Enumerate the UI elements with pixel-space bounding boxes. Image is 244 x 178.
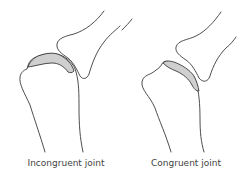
- cartilage-left: [28, 53, 74, 72]
- congruent-joint-illustration: [142, 12, 236, 152]
- upper-bone-right-edge: [122, 19, 132, 30]
- congruent-joint-label: Congruent joint: [151, 158, 221, 168]
- cartilage-right: [163, 61, 199, 91]
- incongruent-joint-label: Incongruent joint: [27, 158, 104, 168]
- lower-bone-right: [142, 61, 204, 152]
- incongruent-joint-illustration: [20, 11, 120, 152]
- joint-diagram: [0, 0, 244, 178]
